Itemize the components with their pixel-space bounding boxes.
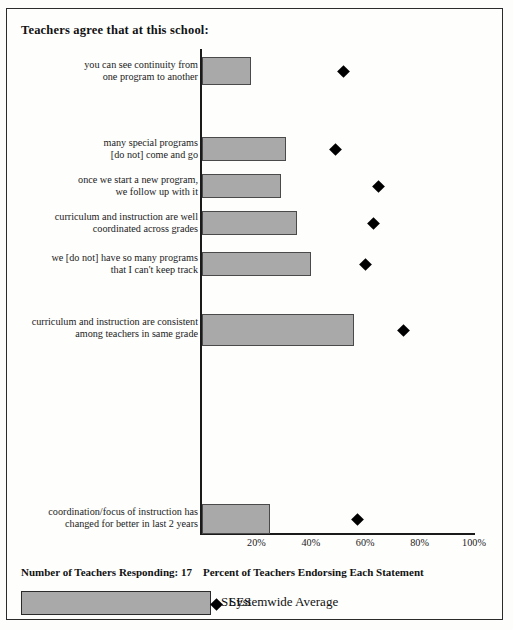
x-tick-label: 80% xyxy=(400,537,440,548)
category-label: coordination/focus of instruction has ch… xyxy=(48,506,198,529)
category-label: you can see continuity from one program … xyxy=(84,59,198,82)
category-label: many special programs [do not] come and … xyxy=(104,137,199,160)
point-systemwide-average xyxy=(397,324,410,337)
category-label: we [do not] have so many programs that I… xyxy=(51,252,198,275)
point-systemwide-average xyxy=(351,513,364,526)
legend-bar-swatch xyxy=(21,591,211,615)
bar-sles xyxy=(202,314,354,346)
point-systemwide-average xyxy=(329,143,342,156)
category-label: curriculum and instruction are consisten… xyxy=(32,316,198,339)
x-tick-label: 40% xyxy=(291,537,331,548)
bar-sles xyxy=(202,174,281,198)
category-label: once we start a new program, we follow u… xyxy=(78,174,198,197)
x-tick-label: 100% xyxy=(454,537,494,548)
category-label: curriculum and instruction are well coor… xyxy=(55,211,198,234)
bar-sles xyxy=(202,137,286,161)
point-systemwide-average xyxy=(372,180,385,193)
plot-area: you can see continuity from one program … xyxy=(7,9,504,621)
point-systemwide-average xyxy=(367,217,380,230)
x-axis-caption: Percent of Teachers Endorsing Each State… xyxy=(203,566,424,578)
bar-sles xyxy=(202,252,311,276)
x-tick-label: 60% xyxy=(345,537,385,548)
point-systemwide-average xyxy=(337,65,350,78)
bar-sles xyxy=(202,504,270,534)
bar-sles xyxy=(202,57,251,85)
x-tick-label: 20% xyxy=(236,537,276,548)
y-axis-line xyxy=(200,49,202,534)
respondent-count: Number of Teachers Responding: 17 xyxy=(21,566,192,578)
legend-point-label: Systemwide Average xyxy=(229,594,338,610)
chart-frame: Teachers agree that at this school: you … xyxy=(6,8,503,620)
bar-sles xyxy=(202,211,297,235)
point-systemwide-average xyxy=(359,258,372,271)
